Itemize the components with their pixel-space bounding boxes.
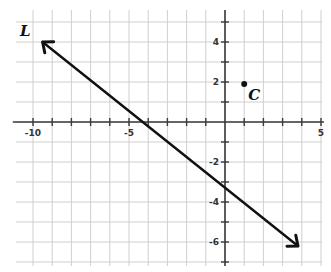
y-tick-label: -6 (209, 237, 219, 247)
coordinate-plane: -10-5542-2-4-6 L C (0, 0, 331, 272)
axes: -10-5542-2-4-6 (13, 10, 324, 266)
x-tick-label: -5 (124, 128, 134, 138)
x-tick-label: -10 (25, 128, 41, 138)
y-tick-label: 4 (213, 37, 219, 47)
line-l: L (19, 22, 298, 246)
line-l-segment (43, 42, 298, 246)
line-label: L (19, 22, 31, 40)
point-label: C (248, 86, 260, 104)
y-tick-label: -4 (209, 197, 219, 207)
x-tick-label: 5 (318, 128, 324, 138)
y-tick-label: 2 (213, 77, 219, 87)
y-tick-label: -2 (209, 157, 219, 167)
point-c-dot (241, 81, 247, 87)
